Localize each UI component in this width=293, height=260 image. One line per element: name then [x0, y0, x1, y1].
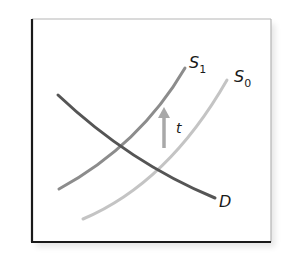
arrow-up-icon [158, 107, 170, 118]
tax-shift-arrow [158, 107, 170, 148]
s0-label: S0 [234, 67, 251, 90]
d-label: D [219, 192, 231, 211]
tax-label: t [176, 120, 182, 136]
s1-label: S1 [189, 53, 206, 76]
demand-curve [58, 95, 215, 198]
supply-curve-s1 [59, 68, 185, 189]
supply-demand-diagram: t S1 S0 D [0, 0, 293, 260]
supply-curve-s0 [83, 80, 227, 219]
